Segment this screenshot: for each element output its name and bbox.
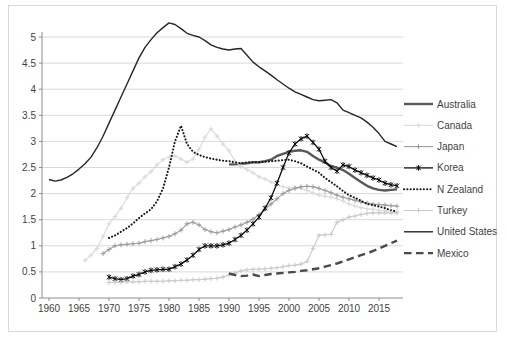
- x-axis-tick-label: 1995: [248, 303, 271, 314]
- series-line-canada: [85, 129, 397, 261]
- y-axis-tick-label: 4: [30, 84, 36, 95]
- legend-key-marker-turkey: [416, 208, 421, 213]
- x-axis-ticks: 1960196519701975198019851990199520002005…: [38, 298, 391, 314]
- y-axis-tick-label: 0.5: [22, 266, 36, 277]
- y-axis-tick-label: 3: [30, 136, 36, 147]
- x-axis-tick-label: 1980: [158, 303, 181, 314]
- y-axis-tick-label: 1.5: [22, 214, 36, 225]
- x-axis-tick-label: 1975: [128, 303, 151, 314]
- legend-label-turkey: Turkey: [437, 205, 467, 216]
- x-axis-tick-label: 2010: [338, 303, 361, 314]
- legend: AustraliaCanadaJapanKoreaN ZealandTurkey…: [404, 99, 497, 259]
- y-axis-ticks: 00.511.522.533.544.55: [22, 32, 42, 304]
- y-axis-tick-label: 5: [30, 32, 36, 43]
- x-axis-tick-label: 1970: [98, 303, 121, 314]
- legend-label-united-states: United States: [437, 226, 497, 237]
- legend-item-united-states: United States: [404, 226, 497, 237]
- x-axis-tick-label: 2005: [308, 303, 331, 314]
- legend-item-turkey: Turkey: [404, 205, 467, 216]
- legend-label-korea: Korea: [437, 162, 464, 173]
- y-axis-tick-label: 1: [30, 240, 36, 251]
- legend-item-japan: Japan: [404, 141, 464, 152]
- x-axis-tick-label: 1965: [68, 303, 91, 314]
- legend-label-australia: Australia: [437, 99, 476, 110]
- legend-item-canada: Canada: [404, 120, 472, 131]
- y-axis-tick-label: 3.5: [22, 110, 36, 121]
- line-chart-figure: 00.511.522.533.544.551960196519701975198…: [0, 0, 507, 341]
- legend-item-korea: Korea: [404, 162, 464, 173]
- chart: 00.511.522.533.544.551960196519701975198…: [0, 0, 507, 341]
- x-axis-tick-label: 1960: [38, 303, 61, 314]
- x-axis-tick-label: 2015: [368, 303, 391, 314]
- legend-item-n-zealand: N Zealand: [404, 184, 483, 195]
- legend-key-marker-canada: [416, 123, 421, 128]
- legend-label-mexico: Mexico: [437, 248, 469, 259]
- legend-label-japan: Japan: [437, 141, 464, 152]
- x-axis-tick-label: 1990: [218, 303, 241, 314]
- y-axis-tick-label: 2.5: [22, 162, 36, 173]
- series-line-united-states: [49, 23, 397, 181]
- series-markers-canada: [83, 126, 400, 262]
- x-axis-tick-label: 1985: [188, 303, 211, 314]
- y-axis-tick-label: 0: [30, 293, 36, 304]
- legend-item-australia: Australia: [404, 99, 476, 110]
- legend-key-marker-japan: [416, 144, 421, 149]
- legend-label-canada: Canada: [437, 120, 472, 131]
- legend-label-n-zealand: N Zealand: [437, 184, 483, 195]
- legend-item-mexico: Mexico: [404, 248, 469, 259]
- y-axis-tick-label: 4.5: [22, 58, 36, 69]
- y-axis-tick-label: 2: [30, 188, 36, 199]
- x-axis-tick-label: 2000: [278, 303, 301, 314]
